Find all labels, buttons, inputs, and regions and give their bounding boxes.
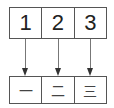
arrow-line [90, 39, 91, 69]
arrow-head [22, 68, 28, 76]
chinese-numeral-cell-3: 三 [75, 77, 106, 103]
chinese-numeral-row: 一 二 三 [9, 76, 107, 104]
chinese-numeral-cell-1: 一 [10, 77, 42, 103]
arrow-down-icon [90, 39, 91, 76]
arrow-down-icon [58, 39, 59, 76]
arrow-head [55, 68, 61, 76]
arrow-head [87, 68, 93, 76]
arrow-down-icon [25, 39, 26, 76]
arabic-numeral-row: 1 2 3 [9, 7, 107, 39]
numeral-cell-1: 1 [10, 8, 42, 38]
numeral-cell-3: 3 [75, 8, 106, 38]
chinese-numeral-cell-2: 二 [42, 77, 74, 103]
numeral-cell-2: 2 [42, 8, 74, 38]
arrow-line [58, 39, 59, 69]
arrow-line [25, 39, 26, 69]
